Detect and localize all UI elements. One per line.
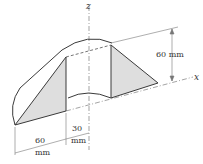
top-hidden-line xyxy=(66,45,111,57)
dim-30-unit: mm xyxy=(71,136,87,145)
x-axis-label: x xyxy=(194,72,199,82)
dim-30-value: 30 xyxy=(72,124,82,133)
dim-60-value: 60 xyxy=(35,136,45,145)
z-axis-label: z xyxy=(85,1,91,11)
technical-drawing: z x 60 mm 60 mm 30 mm xyxy=(0,0,203,164)
top-arc xyxy=(62,39,112,50)
bottom-arc xyxy=(68,93,111,98)
dim-60-unit: mm xyxy=(35,148,51,157)
height-dimension-label: 60 mm xyxy=(156,50,184,59)
